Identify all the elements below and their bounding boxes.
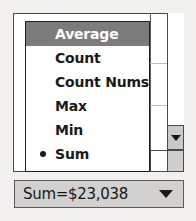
- menu-item-label: Count: [55, 50, 101, 66]
- summary-value-combobox[interactable]: Sum=$23,038: [14, 180, 184, 208]
- menu-item-max[interactable]: Max: [26, 94, 149, 118]
- summary-function-menu[interactable]: Average Count Count Nums Max Min Sum: [25, 21, 150, 172]
- scroll-down-button[interactable]: [167, 125, 184, 150]
- triangle-down-icon: [171, 135, 181, 141]
- menu-item-label: Min: [55, 122, 83, 138]
- menu-item-label: Average: [55, 26, 118, 42]
- menu-item-label: Sum: [55, 146, 89, 162]
- sheet-corner-cell-empty: [150, 150, 168, 172]
- menu-item-min[interactable]: Min: [26, 118, 149, 142]
- menu-item-average[interactable]: Average: [26, 22, 149, 46]
- menu-item-count-nums[interactable]: Count Nums: [26, 70, 149, 94]
- radio-selected-icon: [40, 151, 46, 157]
- screenshot-root: Average Count Count Nums Max Min Sum Sum…: [0, 0, 196, 221]
- triangle-down-icon: [159, 190, 173, 198]
- menu-item-label: Count Nums: [55, 74, 149, 90]
- menu-item-count[interactable]: Count: [26, 46, 149, 70]
- column-divider: [150, 14, 151, 171]
- menu-item-label: Max: [55, 98, 87, 114]
- menu-item-sum[interactable]: Sum: [26, 142, 149, 166]
- summary-value-text: Sum=$23,038: [15, 185, 149, 203]
- combobox-dropdown-button[interactable]: [149, 190, 183, 198]
